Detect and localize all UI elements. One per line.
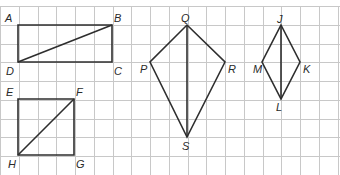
label-h: H xyxy=(8,158,16,170)
label-q: Q xyxy=(181,12,190,24)
grid-lines xyxy=(0,6,340,175)
label-a: A xyxy=(4,12,12,24)
label-j: J xyxy=(276,13,283,25)
grid-diagram: A B C D E F G H Q R S P J K L M xyxy=(0,0,340,175)
label-d: D xyxy=(6,65,14,77)
label-s: S xyxy=(182,140,190,152)
label-b: B xyxy=(114,12,121,24)
label-f: F xyxy=(76,86,84,98)
diagonal-hf xyxy=(18,99,74,155)
label-p: P xyxy=(140,63,148,75)
diagonal-db xyxy=(18,25,112,62)
square-efgh: E F G H xyxy=(6,86,85,170)
label-g: G xyxy=(76,158,85,170)
label-m: M xyxy=(253,63,263,75)
label-c: C xyxy=(114,65,122,77)
label-l: L xyxy=(276,101,282,113)
label-e: E xyxy=(6,86,14,98)
label-k: K xyxy=(303,63,311,75)
label-r: R xyxy=(228,63,236,75)
